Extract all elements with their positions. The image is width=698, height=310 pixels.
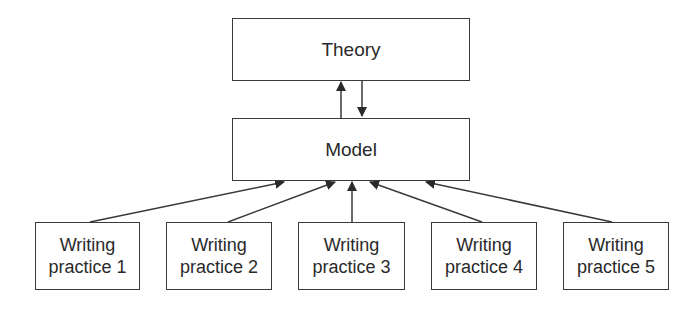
- theory-label: Theory: [321, 39, 380, 61]
- practice-label-line1: Writing: [324, 234, 380, 256]
- arrow-practice2-to-model: [228, 182, 335, 222]
- practice-label-line1: Writing: [588, 234, 644, 256]
- practice-node-4: Writing practice 4: [431, 222, 537, 290]
- practice-label-line2: practice 1: [48, 256, 126, 278]
- practice-node-2: Writing practice 2: [166, 222, 272, 290]
- model-label: Model: [325, 139, 377, 161]
- practice-label-line1: Writing: [456, 234, 512, 256]
- practice-node-3: Writing practice 3: [298, 222, 405, 290]
- practice-node-1: Writing practice 1: [35, 222, 140, 290]
- practice-label-line2: practice 3: [312, 256, 390, 278]
- practice-label-line2: practice 4: [445, 256, 523, 278]
- practice-label-line2: practice 2: [180, 256, 258, 278]
- arrow-practice5-to-model: [426, 182, 612, 222]
- arrow-practice1-to-model: [90, 182, 284, 222]
- arrow-practice4-to-model: [370, 182, 482, 222]
- practice-label-line1: Writing: [60, 234, 116, 256]
- model-node: Model: [232, 118, 470, 181]
- theory-node: Theory: [232, 18, 470, 81]
- practice-node-5: Writing practice 5: [563, 222, 669, 290]
- practice-label-line1: Writing: [191, 234, 247, 256]
- practice-label-line2: practice 5: [577, 256, 655, 278]
